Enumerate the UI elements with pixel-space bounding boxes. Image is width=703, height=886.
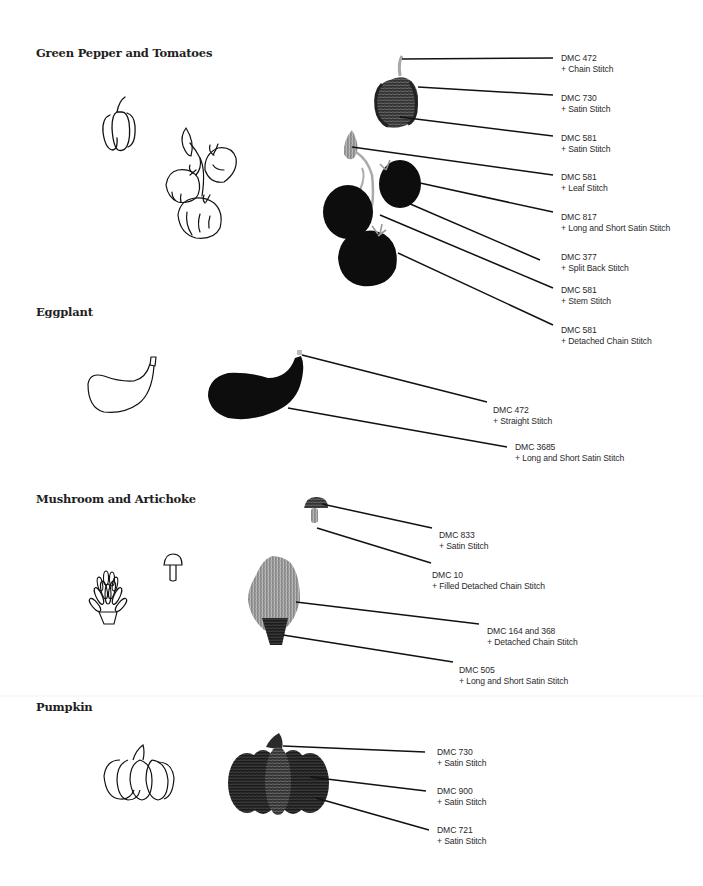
thread-code: DMC 505 (459, 665, 568, 676)
callout-label: DMC 721+ Satin Stitch (437, 825, 486, 847)
stitch-name: + Satin Stitch (437, 797, 486, 808)
mushroom-embroidery (304, 497, 328, 523)
thread-code: DMC 3685 (515, 442, 624, 453)
stitch-name: + Satin Stitch (437, 758, 486, 769)
stitch-name: + Satin Stitch (561, 144, 610, 155)
stitch-name: + Long and Short Satin Stitch (459, 676, 568, 687)
stitch-name: + Long and Short Satin Stitch (561, 223, 670, 234)
callout-label: DMC 817+ Long and Short Satin Stitch (561, 212, 670, 234)
thread-code: DMC 10 (432, 570, 545, 581)
stitch-name: + Straight Stitch (493, 416, 552, 427)
stitch-name: + Stem Stitch (561, 296, 611, 307)
callout-label: DMC 581+ Stem Stitch (561, 285, 611, 307)
pumpkin-embroidery (228, 733, 329, 815)
thread-code: DMC 833 (439, 530, 488, 541)
pepper-embroidery (375, 56, 418, 128)
thread-code: DMC 164 and 368 (487, 626, 578, 637)
tomatoes-embroidery (323, 130, 421, 286)
thread-code: DMC 581 (561, 285, 611, 296)
pumpkin-outline-drawing (104, 745, 174, 800)
thread-code: DMC 581 (561, 133, 610, 144)
callout-label: DMC 730+ Satin Stitch (561, 93, 610, 115)
mushroom-outline-drawing (164, 554, 182, 581)
pepper-outline-drawing (103, 97, 135, 151)
artichoke-embroidery (248, 556, 300, 645)
callout-label: DMC 900+ Satin Stitch (437, 786, 486, 808)
stitch-name: + Chain Stitch (561, 64, 613, 75)
thread-code: DMC 377 (561, 252, 629, 263)
thread-code: DMC 817 (561, 212, 670, 223)
stitch-name: + Detached Chain Stitch (561, 336, 652, 347)
thread-code: DMC 900 (437, 786, 486, 797)
callout-label: DMC 505+ Long and Short Satin Stitch (459, 665, 568, 687)
thread-code: DMC 730 (561, 93, 610, 104)
callout-label: DMC 730+ Satin Stitch (437, 747, 486, 769)
stitch-name: + Split Back Stitch (561, 263, 629, 274)
artichoke-outline-drawing (88, 571, 129, 624)
stitch-name: + Filled Detached Chain Stitch (432, 581, 545, 592)
thread-code: DMC 472 (493, 405, 552, 416)
stitch-name: + Detached Chain Stitch (487, 637, 578, 648)
callout-label: DMC 581+ Leaf Stitch (561, 172, 608, 194)
callout-label: DMC 164 and 368+ Detached Chain Stitch (487, 626, 578, 648)
stitch-name: + Satin Stitch (439, 541, 488, 552)
stitch-name: + Satin Stitch (437, 836, 486, 847)
stitch-name: + Long and Short Satin Stitch (515, 453, 624, 464)
tomatoes-outline-drawing (166, 128, 236, 238)
thread-code: DMC 730 (437, 747, 486, 758)
thread-code: DMC 581 (561, 172, 608, 183)
stitch-name: + Leaf Stitch (561, 183, 608, 194)
thread-code: DMC 721 (437, 825, 486, 836)
thread-code: DMC 581 (561, 325, 652, 336)
callout-label: DMC 833+ Satin Stitch (439, 530, 488, 552)
callout-label: DMC 3685+ Long and Short Satin Stitch (515, 442, 624, 464)
eggplant-outline-drawing (88, 357, 156, 412)
stitch-name: + Satin Stitch (561, 104, 610, 115)
callout-label: DMC 377+ Split Back Stitch (561, 252, 629, 274)
leader-lines-section-2 (288, 355, 507, 447)
callout-label: DMC 10+ Filled Detached Chain Stitch (432, 570, 545, 592)
callout-label: DMC 581+ Satin Stitch (561, 133, 610, 155)
callout-label: DMC 472+ Chain Stitch (561, 53, 613, 75)
thread-code: DMC 472 (561, 53, 613, 64)
callout-label: DMC 581+ Detached Chain Stitch (561, 325, 652, 347)
callout-label: DMC 472+ Straight Stitch (493, 405, 552, 427)
